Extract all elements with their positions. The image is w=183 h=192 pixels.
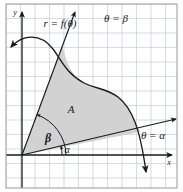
polar-area-figure: y x r = f(θ) θ = β θ = α A β α <box>0 0 183 192</box>
area-label: A <box>67 103 75 115</box>
angle-alpha-label: α <box>64 144 70 155</box>
figure-canvas: y x r = f(θ) θ = β θ = α A β α <box>0 0 183 192</box>
ray-beta-label: θ = β <box>104 12 128 24</box>
y-axis-label: y <box>12 8 17 17</box>
ray-alpha-label: θ = α <box>141 129 165 141</box>
x-axis-label: x <box>166 158 171 167</box>
angle-beta-label: β <box>44 131 52 145</box>
curve-equation-label: r = f(θ) <box>44 17 77 30</box>
